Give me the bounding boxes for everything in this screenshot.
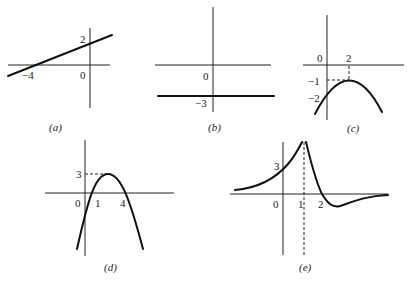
tick-y-intercept: 2: [80, 33, 86, 45]
curve-left-branch: [235, 142, 302, 190]
tick-vertex-x: 2: [346, 52, 352, 64]
tick-origin: 0: [273, 198, 279, 210]
tick-x-intercept: −4: [22, 69, 34, 81]
tick-max-y: 3: [76, 168, 82, 180]
tick-origin: 0: [317, 52, 323, 64]
tick-y-value: −3: [195, 97, 207, 109]
tick-root-1: 1: [95, 197, 101, 209]
panel-label: (e): [299, 261, 312, 274]
panel-d: 3 0 1 4 (d): [45, 140, 174, 274]
parabola-graph: [77, 174, 143, 249]
tick-y-intercept: 3: [274, 160, 280, 172]
tick-asymptote-x: 1: [298, 198, 304, 210]
parabola-graph: [315, 80, 382, 114]
panel-e: 3 0 1 2 (e): [230, 142, 388, 274]
tick-root-2: 4: [120, 197, 126, 209]
panel-label: (c): [347, 122, 360, 135]
tick-origin: 0: [203, 70, 209, 82]
figure-canvas: 2 −4 0 (a) 0 −3 (b) 0 2 −1 −2 (c) 3 0 1 …: [0, 0, 407, 282]
tick-origin: 0: [75, 197, 81, 209]
tick-vertex-y: −1: [308, 75, 320, 87]
panel-label: (d): [104, 261, 117, 274]
panel-label: (b): [208, 121, 221, 134]
panel-b: 0 −3 (b): [155, 7, 274, 134]
panel-a: 2 −4 0 (a): [8, 28, 112, 134]
panel-c: 0 2 −1 −2 (c): [303, 15, 404, 135]
tick-y-intercept: −2: [308, 92, 320, 104]
tick-x-intercept: 2: [318, 198, 324, 210]
curve-right-branch: [306, 142, 388, 207]
tick-origin: 0: [80, 69, 86, 81]
panel-label: (a): [49, 121, 62, 134]
